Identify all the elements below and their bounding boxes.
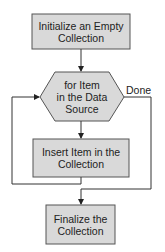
loop-line-2: in the Data: [57, 91, 108, 103]
insert-item-text: Insert Item in the Collection: [33, 139, 129, 177]
finalize-line-2: Collection: [54, 225, 108, 237]
loop-line-1: for Item: [57, 79, 108, 91]
init-collection-text: Initialize an Empty Collection: [32, 14, 130, 49]
insert-line-2: Collection: [42, 158, 120, 170]
insert-line-1: Insert Item in the: [42, 146, 120, 158]
init-line-1: Initialize an Empty: [38, 20, 123, 32]
finalize-text: Finalize the Collection: [46, 205, 115, 244]
loop-text: for Item in the Data Source: [40, 72, 124, 121]
loop-line-3: Source: [57, 103, 108, 115]
done-edge-label: Done: [126, 84, 151, 96]
init-line-2: Collection: [38, 32, 123, 44]
finalize-line-1: Finalize the: [54, 213, 108, 225]
